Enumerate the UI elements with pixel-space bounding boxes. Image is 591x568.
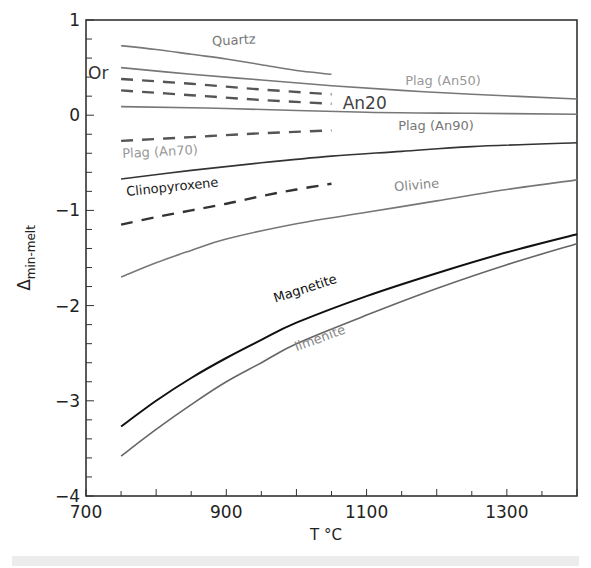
y-tick-label: 1 xyxy=(69,10,80,30)
y-tick-label: −4 xyxy=(55,486,80,506)
series-plag-an50-label: Plag (An50) xyxy=(405,73,481,88)
x-tick-label: 1300 xyxy=(485,502,528,522)
y-axis-title-subscript: min-melt xyxy=(24,225,38,279)
y-tick-label: 0 xyxy=(69,105,80,125)
x-tick-label: 900 xyxy=(210,502,242,522)
series-an20-label: An20 xyxy=(343,93,387,113)
series-ilmenite-label: Ilmenite xyxy=(292,322,347,354)
y-axis-title: Δmin-melt xyxy=(14,225,38,291)
footer-strip xyxy=(12,556,579,566)
series-clinopyroxene-label: Clinopyroxene xyxy=(125,175,219,200)
series-magnetite-label: Magnetite xyxy=(272,271,339,306)
plot-frame xyxy=(86,20,577,496)
y-tick-label: −1 xyxy=(55,200,80,220)
series-quartz-label: Quartz xyxy=(212,31,257,48)
series-magnetite-line xyxy=(121,234,577,426)
series-olivine-line xyxy=(121,180,577,277)
series-or-label: Or xyxy=(88,63,108,83)
chart: 7009001100130010−1−2−3−4 QuartzPlag (An5… xyxy=(0,0,591,568)
series-ilmenite-line xyxy=(121,244,577,456)
x-axis-title: T °C xyxy=(309,526,342,544)
x-tick-label: 1100 xyxy=(345,502,388,522)
series-olivine-label: Olivine xyxy=(394,175,440,194)
series-plag-an70-line xyxy=(121,130,331,141)
y-axis-title-symbol: Δ xyxy=(14,279,34,291)
y-tick-label: −2 xyxy=(55,296,80,316)
series-plag-an70-label: Plag (An70) xyxy=(122,142,198,161)
series-plag-an90-label: Plag (An90) xyxy=(398,118,474,133)
y-tick-label: −3 xyxy=(55,391,80,411)
